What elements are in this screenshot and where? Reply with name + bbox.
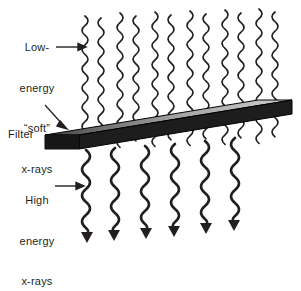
transmitted-wave [171, 144, 179, 229]
incident-wave [98, 18, 104, 143]
transmitted-arrowhead-group [81, 220, 240, 243]
low-energy-label-line-2: energy [6, 82, 68, 96]
high-energy-xrays-label: High energy x-rays [6, 167, 68, 291]
transmitted-wave [82, 150, 90, 235]
arrowhead-down-icon [168, 226, 180, 237]
filter-label-line-1: Filter [8, 128, 60, 142]
arrowhead-down-icon [228, 220, 240, 231]
high-energy-label-line-2: energy [6, 235, 68, 249]
transmitted-wave [201, 141, 209, 226]
incident-wave [82, 16, 88, 141]
incident-wave [272, 12, 278, 137]
arrowhead-down-icon [200, 223, 212, 234]
high-energy-label-line-1: High [6, 194, 68, 208]
arrowhead-down-icon [81, 232, 93, 243]
transmitted-wave-group [82, 138, 239, 235]
transmitted-wave [141, 146, 149, 231]
incident-wave [256, 9, 262, 143]
low-energy-label-line-1: Low- [6, 41, 68, 55]
filter-label: Filter [8, 101, 60, 169]
arrowhead-down-icon [108, 230, 120, 241]
transmitted-wave [111, 148, 119, 233]
arrowhead-down-icon [140, 228, 152, 239]
high-energy-arrowhead-icon [76, 183, 84, 190]
high-energy-label-line-3: x-rays [6, 275, 68, 289]
transmitted-wave [231, 138, 239, 223]
